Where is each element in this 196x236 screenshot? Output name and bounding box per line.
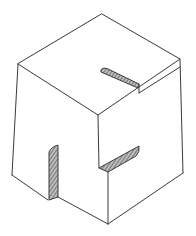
left-edge (12, 64, 18, 175)
right-edge (180, 59, 183, 173)
top-slot-bottom-edge (139, 67, 180, 93)
right-bottom-edge (108, 173, 183, 224)
center-edge-upper (98, 115, 99, 168)
front-bottom-edge (58, 197, 108, 224)
left-slot (49, 145, 58, 200)
figure-canvas: Isometric cube with slots (0, 0, 196, 236)
top-slot (101, 68, 139, 88)
top-face (18, 14, 180, 115)
cube-drawing (0, 0, 196, 236)
lower-right-slot (99, 146, 139, 172)
left-bottom-edge (12, 175, 48, 200)
